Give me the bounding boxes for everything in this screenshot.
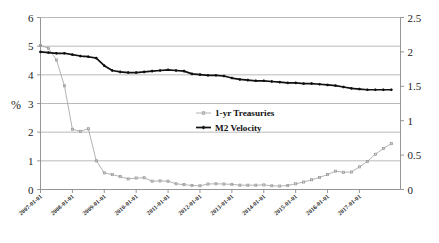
- x-axis-tick-label: 2014-01-01: [241, 193, 266, 216]
- x-axis-ticks: 2007-01-012008-01-012009-01-012010-01-01…: [18, 190, 362, 217]
- x-axis-tick-label: 2016-01-01: [305, 193, 330, 216]
- y-axis-left-tick-label: 6: [28, 12, 34, 24]
- y-axis-label: %: [11, 98, 21, 112]
- y-axis-right-tick-label: 2.5: [408, 12, 422, 24]
- y-axis-left-tick-label: 2: [28, 126, 34, 138]
- x-axis-tick-label: 2009-01-01: [82, 193, 107, 216]
- x-axis-tick-label: 2015-01-01: [273, 193, 298, 216]
- y-axis-left-tick-label: 0: [28, 184, 34, 196]
- gridlines: [41, 18, 401, 161]
- legend-item-1-yr-treasuries: 1-yr Treasuries: [196, 108, 275, 118]
- x-axis-tick-label: 2011-01-01: [146, 193, 171, 216]
- y-axis-right-tick-label: 2: [408, 46, 414, 58]
- x-axis-tick-label: 2012-01-01: [177, 193, 202, 216]
- y-axis-left-tick-label: 4: [28, 69, 34, 81]
- x-axis-tick-label: 2008-01-01: [50, 193, 75, 216]
- x-axis-tick-label: 2007-01-01: [18, 193, 43, 216]
- x-axis-tick-label: 2013-01-01: [209, 193, 234, 216]
- y-axis-left-tick-label: 5: [28, 40, 34, 52]
- y-axis-right-tick-label: 0: [408, 184, 414, 196]
- chart-legend: 1-yr TreasuriesM2 Velocity: [196, 108, 275, 132]
- y-axis-right-ticks: 00.511.522.5: [401, 12, 422, 196]
- legend-item-m2-velocity: M2 Velocity: [196, 123, 262, 133]
- legend-label: M2 Velocity: [215, 123, 262, 133]
- y-axis-left-tick-label: 3: [28, 98, 34, 110]
- y-axis-left-ticks: 0123456: [28, 12, 41, 196]
- y-axis-right-tick-label: 1: [408, 115, 414, 127]
- y-axis-left-title: %: [11, 98, 21, 112]
- y-axis-right-tick-label: 1.5: [408, 80, 422, 92]
- x-axis-tick-label: 2010-01-01: [113, 193, 138, 216]
- series-line: [41, 52, 392, 90]
- y-axis-left-tick-label: 1: [28, 155, 34, 167]
- dual-axis-line-chart: 0123456 00.511.522.5 2007-01-012008-01-0…: [0, 0, 439, 243]
- legend-label: 1-yr Treasuries: [215, 108, 275, 118]
- x-axis-tick-label: 2017-01-01: [337, 193, 362, 216]
- chart-container: 0123456 00.511.522.5 2007-01-012008-01-0…: [0, 0, 439, 243]
- y-axis-right-tick-label: 0.5: [408, 149, 422, 161]
- series-m2-velocity: [39, 51, 392, 91]
